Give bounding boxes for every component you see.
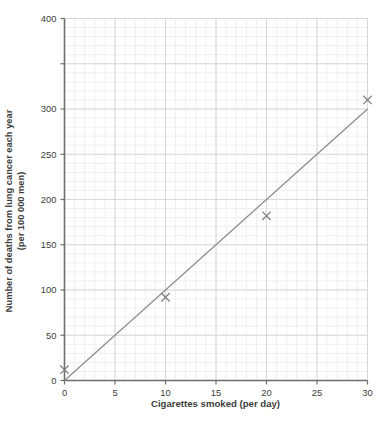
x-axis-tick-labels: 051015202530 bbox=[62, 387, 373, 398]
x-tick-label: 20 bbox=[261, 387, 271, 398]
x-tick-label: 25 bbox=[312, 387, 322, 398]
axis-ticks bbox=[61, 19, 368, 385]
y-axis-tick-labels: 050100150200250300400 bbox=[41, 13, 57, 386]
x-tick-label: 30 bbox=[362, 387, 372, 398]
y-tick-label: 0 bbox=[51, 375, 56, 386]
scatter-chart: Number of deaths from lung cancer each y… bbox=[0, 0, 381, 422]
y-tick-label: 300 bbox=[41, 103, 57, 114]
x-tick-label: 0 bbox=[62, 387, 67, 398]
y-tick-label: 400 bbox=[41, 13, 57, 24]
x-tick-label: 15 bbox=[211, 387, 221, 398]
y-tick-label: 250 bbox=[41, 149, 57, 160]
plot-svg: 050100150200250300400 051015202530 bbox=[0, 0, 381, 422]
y-tick-label: 100 bbox=[41, 284, 57, 295]
y-tick-label: 50 bbox=[46, 330, 56, 341]
x-tick-label: 5 bbox=[112, 387, 117, 398]
x-tick-label: 10 bbox=[160, 387, 170, 398]
y-tick-label: 200 bbox=[41, 194, 57, 205]
y-tick-label: 150 bbox=[41, 239, 57, 250]
